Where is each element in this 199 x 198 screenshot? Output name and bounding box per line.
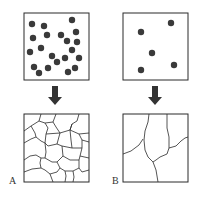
diagram-canvas <box>0 0 199 198</box>
panel-label-b: B <box>112 175 119 186</box>
panel-b-nuclei-box <box>123 13 188 80</box>
panel-a-grains-box <box>24 114 89 182</box>
panel-a-nuclei-box <box>24 13 89 80</box>
arrow-down-icon-a <box>48 86 62 105</box>
nuclei-dots-b <box>138 20 177 73</box>
arrow-down-icon-b <box>148 86 162 105</box>
panel-label-a: A <box>9 175 16 186</box>
nuclei-dots-a <box>27 17 82 76</box>
panel-b-grains-box <box>123 114 188 182</box>
